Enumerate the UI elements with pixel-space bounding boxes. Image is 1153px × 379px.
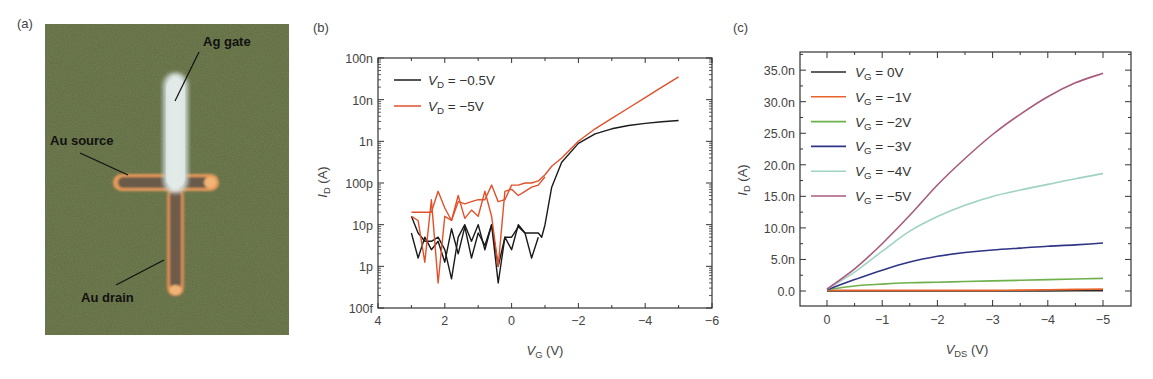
x-tick-label: −2 [930, 313, 944, 327]
y-tick-label: 5.0n [771, 253, 795, 267]
legend-label: VG = −1V [855, 90, 911, 107]
series-line [827, 278, 1103, 289]
plot-frame [800, 52, 1131, 306]
legend-label: VG = −2V [855, 115, 911, 132]
output-curve-chart: 0−1−2−3−4−50.05.0n10.0n15.0n20.0n25.0n30… [0, 0, 1153, 379]
series-line [827, 289, 1103, 290]
legend-label: VG = −4V [855, 164, 911, 181]
legend: VG = 0VVG = −1VVG = −2VVG = −3VVG = −4VV… [811, 65, 911, 206]
y-tick-label: 35.0n [764, 64, 795, 78]
x-tick-label: 0 [824, 313, 831, 327]
x-tick-label: −3 [985, 313, 999, 327]
legend-label: VG = 0V [855, 65, 903, 82]
y-tick-label: 10.0n [764, 222, 795, 236]
legend-label: VG = −3V [855, 139, 911, 156]
series-line [827, 174, 1103, 290]
y-tick-label: 0.0 [778, 285, 795, 299]
x-tick-label: −5 [1096, 313, 1110, 327]
y-tick-label: 20.0n [764, 159, 795, 173]
y-axis-label: ID (A) [735, 164, 752, 195]
y-tick-label: 15.0n [764, 190, 795, 204]
x-axis-label: VDS (V) [946, 342, 989, 359]
x-tick-label: −4 [1041, 313, 1055, 327]
legend-label: VG = −5V [855, 189, 911, 206]
x-tick-label: −1 [875, 313, 889, 327]
series-line [827, 243, 1103, 290]
y-tick-label: 30.0n [764, 96, 795, 110]
y-tick-label: 25.0n [764, 127, 795, 141]
